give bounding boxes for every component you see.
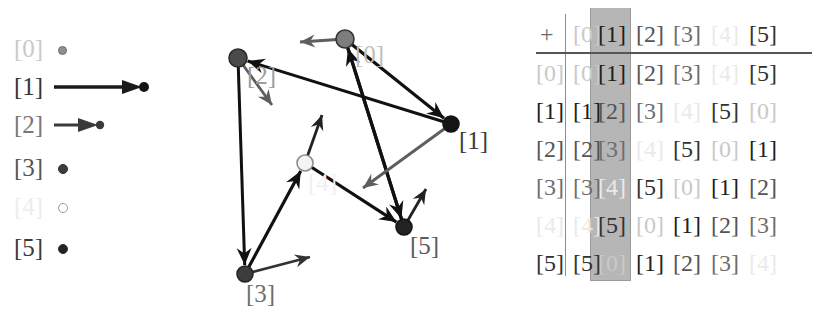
graph-node-label-4: [4] — [308, 170, 337, 195]
legend-row: [2] — [0, 110, 200, 140]
legend-glyph-arrow-long — [52, 72, 162, 102]
table-cell-2-1: [3] — [598, 133, 626, 165]
legend-arrow — [52, 72, 156, 102]
table-cell-1-0: [1] — [573, 95, 601, 127]
legend-glyph-arrow-short — [52, 110, 162, 140]
table-cell-1-3: [4] — [673, 95, 701, 127]
table-cell-2-2: [4] — [636, 133, 664, 165]
legend-glyph-dot-med — [52, 233, 162, 263]
table-cell-0-5: [5] — [749, 57, 777, 89]
table-cell-2-0: [2] — [573, 133, 601, 165]
graph-node-label-3: [3] — [246, 281, 275, 306]
legend-glyph-dot-open — [52, 192, 162, 222]
legend-dot — [58, 46, 67, 55]
table-cell-3-5: [2] — [749, 171, 777, 203]
legend-dot — [58, 164, 68, 174]
table-row-header-0: [0] — [536, 57, 564, 89]
table-row-header-2: [2] — [536, 133, 564, 165]
table-cell-2-3: [5] — [673, 133, 701, 165]
table-cell-3-4: [1] — [711, 171, 739, 203]
graph-edge — [238, 58, 245, 265]
table-row-header-3: [3] — [536, 171, 564, 203]
table-cell-0-4: [4] — [711, 57, 739, 89]
legend-label: [2] — [14, 110, 43, 140]
table-cell-2-5: [1] — [749, 133, 777, 165]
graph-edge — [348, 49, 404, 227]
legend-glyph-dot-med — [52, 153, 162, 183]
table-operator-symbol: + — [540, 18, 554, 50]
legend-row: [4] — [0, 192, 200, 222]
cayley-graph: [0][1][2][3][4][5] — [200, 0, 520, 317]
table-cell-5-1: [0] — [598, 247, 626, 279]
legend-label: [1] — [14, 72, 43, 102]
table-cell-3-3: [0] — [673, 171, 701, 203]
table-col-header-2: [2] — [636, 18, 664, 50]
table-cell-0-2: [2] — [636, 57, 664, 89]
table-col-header-4: [4] — [711, 18, 739, 50]
table-cell-4-0: [4] — [573, 209, 601, 241]
table-cell-1-4: [5] — [711, 95, 739, 127]
legend-dot — [58, 203, 68, 213]
table-col-header-3: [3] — [673, 18, 701, 50]
table-col-header-1: [1] — [598, 18, 626, 50]
table-cell-5-5: [4] — [749, 247, 777, 279]
graph-node-2[interactable] — [229, 49, 247, 67]
table-row-header-4: [4] — [536, 209, 564, 241]
legend-row: [5] — [0, 233, 200, 263]
graph-node-1[interactable] — [443, 116, 459, 132]
table-cell-1-5: [0] — [749, 95, 777, 127]
table-row-header-5: [5] — [536, 247, 564, 279]
table-cell-4-4: [2] — [711, 209, 739, 241]
graph-node-0[interactable] — [336, 30, 354, 48]
arrowhead — [363, 174, 379, 188]
legend-label: [4] — [14, 192, 43, 222]
table-cell-4-3: [1] — [673, 209, 701, 241]
element-legend: [0][1][2][3][4][5] — [0, 0, 200, 317]
table-horizontal-rule — [536, 52, 812, 54]
table-cell-5-2: [1] — [636, 247, 664, 279]
table-cell-0-0: [0] — [573, 57, 601, 89]
table-cell-3-2: [5] — [636, 171, 664, 203]
table-cell-4-1: [5] — [598, 209, 626, 241]
graph-node-label-5: [5] — [410, 233, 439, 258]
legend-label: [3] — [14, 153, 43, 183]
legend-row: [1] — [0, 72, 200, 102]
graph-edge — [245, 171, 301, 274]
legend-dot — [58, 244, 68, 254]
table-cell-5-0: [5] — [573, 247, 601, 279]
table-cell-5-3: [2] — [673, 247, 701, 279]
table-col-header-5: [5] — [749, 18, 777, 50]
graph-node-label-0: [0] — [355, 42, 384, 67]
table-col-header-0: [0] — [573, 18, 601, 50]
table-cell-1-1: [2] — [598, 95, 626, 127]
table-cell-4-2: [0] — [636, 209, 664, 241]
graph-edge — [248, 61, 451, 124]
figure-root: [0][1][2][3][4][5] [0][1][2][3][4][5] +[… — [0, 0, 821, 317]
legend-arrow — [52, 110, 112, 140]
table-cell-0-1: [1] — [598, 57, 626, 89]
table-cell-2-4: [0] — [711, 133, 739, 165]
table-cell-0-3: [3] — [673, 57, 701, 89]
legend-row: [0] — [0, 34, 200, 64]
legend-label: [0] — [14, 34, 43, 64]
table-cell-4-5: [3] — [749, 209, 777, 241]
table-row-header-1: [1] — [536, 95, 564, 127]
legend-row: [3] — [0, 153, 200, 183]
table-cell-1-2: [3] — [636, 95, 664, 127]
graph-node-label-2: [2] — [247, 63, 276, 88]
table-cell-5-4: [3] — [711, 247, 739, 279]
arrowhead — [258, 89, 272, 105]
legend-label: [5] — [14, 233, 43, 263]
cayley-table: +[0][1][2][3][4][5][0][0][1][2][3][4][5]… — [528, 0, 821, 317]
legend-glyph-dot-small — [52, 34, 162, 64]
graph-node-label-1: [1] — [459, 128, 488, 153]
table-cell-3-1: [4] — [598, 171, 626, 203]
table-cell-3-0: [3] — [573, 171, 601, 203]
